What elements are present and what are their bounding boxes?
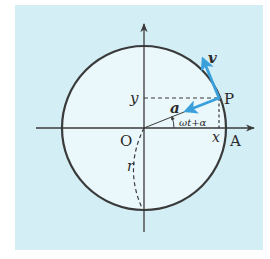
acceleration-label: a (170, 99, 180, 117)
velocity-label: v (208, 49, 217, 67)
point-a-label: A (229, 132, 241, 150)
angle-label: ωt+α (179, 117, 207, 128)
circular-motion-diagram: v P y a ωt+α O x A r (0, 0, 270, 259)
y-coord-label: y (129, 89, 139, 107)
origin-label: O (120, 132, 132, 150)
point-p-label: P (224, 90, 234, 108)
x-coord-label: x (212, 129, 220, 145)
point-p-dot (217, 96, 220, 99)
